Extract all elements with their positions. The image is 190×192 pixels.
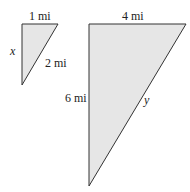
large-triangle bbox=[89, 24, 186, 186]
large-hyp-label: y bbox=[144, 94, 149, 106]
small-hyp-label: 2 mi bbox=[45, 57, 67, 69]
small-left-label: x bbox=[10, 45, 15, 57]
large-left-label: 6 mi bbox=[65, 92, 87, 104]
small-triangle bbox=[22, 24, 58, 85]
small-top-label: 1 mi bbox=[29, 10, 51, 22]
large-top-label: 4 mi bbox=[122, 10, 144, 22]
triangles-diagram bbox=[0, 0, 190, 192]
